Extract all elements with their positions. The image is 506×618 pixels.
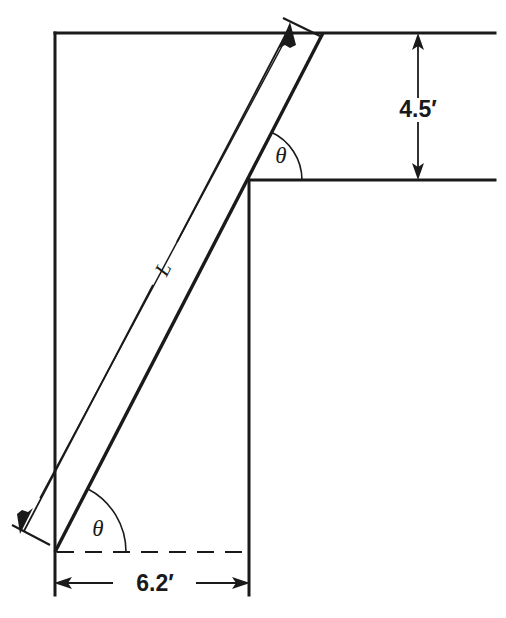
lower-angle-label: θ	[92, 516, 103, 541]
ladder-length-label: L	[149, 258, 176, 280]
base-dimension-group: 6.2′	[54, 556, 250, 596]
length-dim-arrowhead-top	[279, 22, 296, 48]
height-dimension-group: 4.5′	[399, 33, 437, 180]
length-dim-line-lower	[24, 285, 153, 531]
height-dimension-label: 4.5′	[399, 96, 437, 122]
base-dimension-label: 6.2′	[136, 570, 174, 596]
ladder-diagram-svg: L θ θ 4.5′	[0, 0, 506, 618]
ladder-group	[40, 33, 323, 552]
diagram-canvas: L θ θ 4.5′	[0, 0, 506, 618]
ladder-rail-lower	[55, 33, 323, 552]
length-dim-tick-bottom	[12, 525, 50, 545]
ladder-length-dimension: L	[12, 18, 320, 545]
lower-angle-group: θ	[88, 489, 126, 552]
upper-angle-group: θ	[271, 132, 302, 180]
upper-angle-label: θ	[275, 143, 286, 168]
